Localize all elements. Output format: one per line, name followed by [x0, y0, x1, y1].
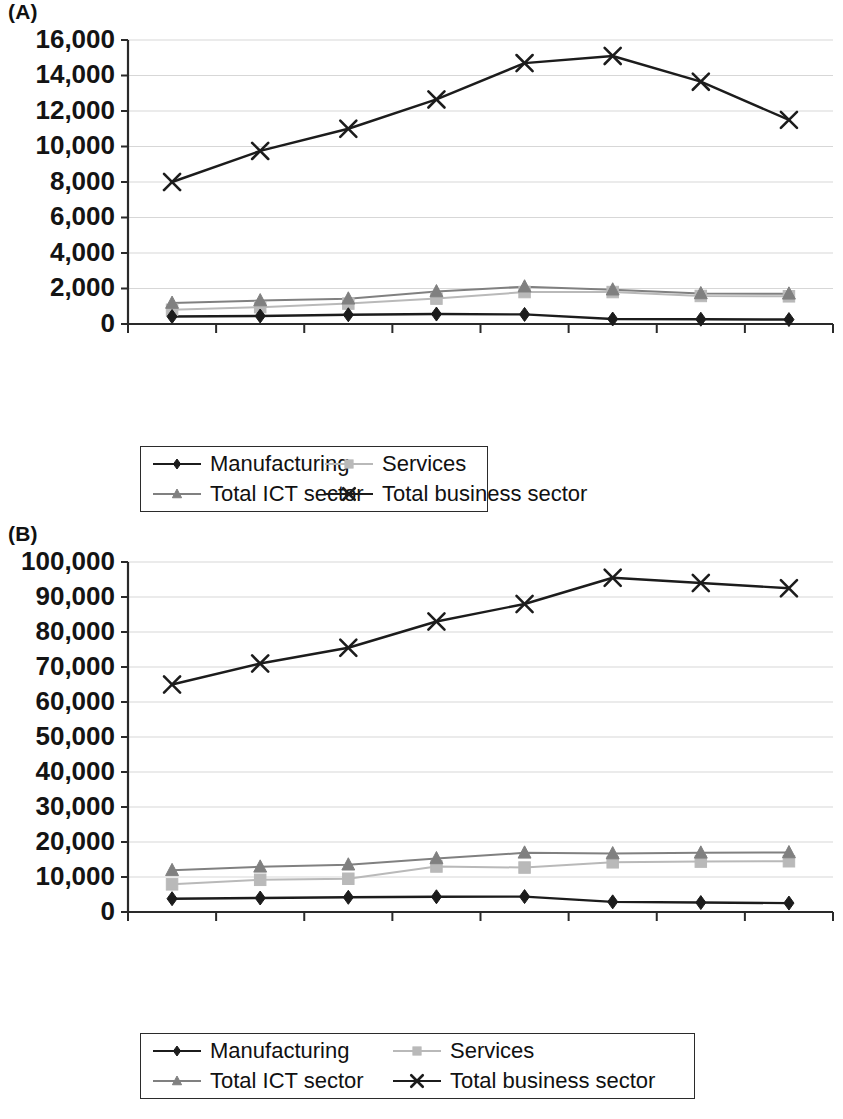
legend-label: Services [382, 453, 466, 475]
y-axis-tick-label: 0 [101, 308, 115, 338]
legend-label: Total business sector [450, 1070, 655, 1092]
diamond-marker [255, 891, 265, 905]
diamond-marker [173, 459, 180, 469]
diamond-marker [173, 1046, 180, 1056]
square-marker [323, 454, 375, 474]
y-axis-tick-label: 14,000 [35, 59, 115, 89]
legend-item-total-ict-sector: Total ICT sector [151, 1070, 391, 1092]
square-marker [345, 460, 353, 468]
square-marker [254, 874, 265, 885]
y-axis-tick-label: 50,000 [35, 721, 115, 751]
chart-b-plot: 010,00020,00030,00040,00050,00060,00070,… [0, 548, 843, 1008]
legend-item-total-ict-sector: Total ICT sector [151, 483, 323, 505]
diamond-marker [343, 308, 353, 322]
square-marker [343, 873, 354, 884]
series-line [172, 56, 789, 182]
y-axis-tick-label: 70,000 [35, 651, 115, 681]
diamond-marker [431, 890, 441, 904]
panel-b-label: (B) [8, 522, 38, 546]
y-axis-tick-label: 40,000 [35, 756, 115, 786]
square-marker [413, 1047, 421, 1055]
legend-swatch-cross-marker [323, 484, 375, 504]
chart-a-plot: 02,0004,0006,0008,00010,00012,00014,0001… [0, 26, 843, 416]
chart-b-legend: ManufacturingServicesTotal ICT sectorTot… [140, 1033, 695, 1099]
legend-swatch-diamond-marker [151, 454, 203, 474]
diamond-marker [151, 454, 203, 474]
diamond-marker [520, 890, 530, 904]
y-axis-tick-label: 12,000 [35, 95, 115, 125]
chart-svg: 010,00020,00030,00040,00050,00060,00070,… [0, 548, 843, 1008]
chart-a-legend: ManufacturingServicesTotal ICT sectorTot… [140, 446, 488, 512]
legend-label: Total ICT sector [210, 1070, 364, 1092]
y-axis-tick-label: 4,000 [50, 237, 115, 267]
legend-swatch-triangle-marker [151, 484, 203, 504]
diamond-marker [608, 895, 618, 909]
panel-a-label: (A) [8, 0, 38, 24]
chart-svg: 02,0004,0006,0008,00010,00012,00014,0001… [0, 26, 843, 416]
diamond-marker [696, 896, 706, 910]
y-axis-tick-label: 90,000 [35, 581, 115, 611]
legend-item-services: Services [391, 1040, 684, 1062]
diamond-marker [343, 890, 353, 904]
diamond-marker [431, 307, 441, 321]
y-axis-tick-label: 60,000 [35, 686, 115, 716]
legend-grid: ManufacturingServicesTotal ICT sectorTot… [151, 1036, 684, 1096]
cross-marker [164, 676, 180, 692]
square-marker [391, 1041, 443, 1061]
legend-label: Total business sector [382, 483, 587, 505]
triangle-marker [151, 1071, 203, 1091]
legend-grid: ManufacturingServicesTotal ICT sectorTot… [151, 449, 477, 509]
diamond-marker [784, 896, 794, 910]
y-axis-tick-label: 100,000 [21, 548, 115, 576]
cross-marker [428, 91, 444, 107]
legend-item-total-business-sector: Total business sector [391, 1070, 684, 1092]
legend-label: Manufacturing [210, 1040, 349, 1062]
y-axis-tick-label: 20,000 [35, 826, 115, 856]
y-axis-tick-label: 30,000 [35, 791, 115, 821]
y-axis-tick-label: 10,000 [35, 130, 115, 160]
legend-label: Services [450, 1040, 534, 1062]
y-axis-tick-label: 80,000 [35, 616, 115, 646]
cross-marker [340, 121, 356, 137]
legend-swatch-square-marker [391, 1041, 443, 1061]
y-axis-tick-label: 10,000 [35, 861, 115, 891]
y-axis-tick-label: 8,000 [50, 166, 115, 196]
legend-item-total-business-sector: Total business sector [323, 483, 587, 505]
legend-swatch-diamond-marker [151, 1041, 203, 1061]
cross-marker [252, 143, 268, 159]
cross-marker [323, 484, 375, 504]
y-axis-tick-label: 6,000 [50, 201, 115, 231]
square-marker [519, 862, 530, 873]
y-axis-tick-label: 0 [101, 896, 115, 926]
y-axis-tick-label: 2,000 [50, 272, 115, 302]
chart-panel-b: (B) 010,00020,00030,00040,00050,00060,00… [0, 522, 843, 1119]
legend-swatch-triangle-marker [151, 1071, 203, 1091]
legend-item-services: Services [323, 453, 587, 475]
diamond-marker [151, 1041, 203, 1061]
chart-panel-a: (A) 02,0004,0006,0008,00010,00012,00014,… [0, 0, 843, 520]
legend-swatch-square-marker [323, 454, 375, 474]
cross-marker [391, 1071, 443, 1091]
diamond-marker [520, 307, 530, 321]
legend-item-manufacturing: Manufacturing [151, 453, 323, 475]
figure-page: (A) 02,0004,0006,0008,00010,00012,00014,… [0, 0, 843, 1119]
square-marker [166, 879, 177, 890]
cross-marker [781, 112, 797, 128]
legend-item-manufacturing: Manufacturing [151, 1040, 391, 1062]
triangle-marker [151, 484, 203, 504]
cross-marker [693, 74, 709, 90]
legend-swatch-cross-marker [391, 1071, 443, 1091]
diamond-marker [167, 892, 177, 906]
y-axis-tick-label: 16,000 [35, 26, 115, 54]
